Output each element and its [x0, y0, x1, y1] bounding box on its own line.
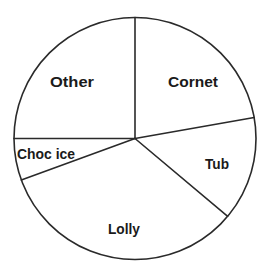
label-choc-ice: Choc ice: [17, 145, 75, 162]
label-cornet: Cornet: [168, 73, 218, 90]
label-lolly: Lolly: [108, 220, 141, 237]
label-tub: Tub: [205, 155, 229, 172]
pie-chart: Other Cornet Choc ice Tub Lolly: [0, 0, 259, 268]
label-other: Other: [50, 73, 94, 90]
